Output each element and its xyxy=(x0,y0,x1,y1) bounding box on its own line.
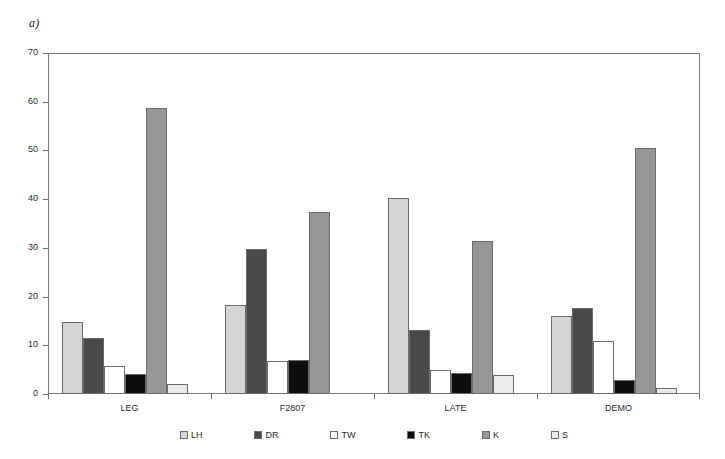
bar xyxy=(104,366,125,394)
bar xyxy=(472,241,493,394)
y-axis-tick-label: 60 xyxy=(28,96,38,107)
x-axis-category-label: F2807 xyxy=(280,403,306,413)
bar xyxy=(288,360,309,394)
legend-item[interactable]: K xyxy=(482,430,499,440)
bar xyxy=(267,361,288,394)
bar xyxy=(614,380,635,394)
bar xyxy=(83,338,104,395)
legend-label: LH xyxy=(191,430,203,440)
x-axis-category-label: LATE xyxy=(445,403,467,413)
bar xyxy=(572,308,593,394)
legend-label: TK xyxy=(418,430,430,440)
legend-item[interactable]: TK xyxy=(407,430,430,440)
bar xyxy=(409,330,430,394)
legend-item[interactable]: LH xyxy=(180,430,203,440)
legend-swatch-icon xyxy=(482,431,490,439)
bar xyxy=(388,198,409,394)
y-axis-tick-label: 0 xyxy=(33,388,38,399)
legend-item[interactable]: S xyxy=(551,430,568,440)
x-axis-category-label: DEMO xyxy=(605,403,632,413)
bars-layer xyxy=(48,53,700,394)
y-axis-tick-label: 10 xyxy=(28,339,38,350)
legend-label: K xyxy=(493,430,499,440)
bar xyxy=(246,249,267,394)
y-axis: 010203040506070 xyxy=(0,53,48,394)
bar xyxy=(309,212,330,394)
legend-swatch-icon xyxy=(330,431,338,439)
bar xyxy=(551,316,572,394)
bar xyxy=(62,322,83,394)
y-axis-tick-label: 50 xyxy=(28,144,38,155)
legend-swatch-icon xyxy=(551,431,559,439)
y-axis-tick-label: 20 xyxy=(28,291,38,302)
legend-label: TW xyxy=(341,430,355,440)
x-axis-tick-mark xyxy=(374,394,375,399)
legend-label: DR xyxy=(265,430,278,440)
y-axis-tick-label: 40 xyxy=(28,193,38,204)
legend-swatch-icon xyxy=(407,431,415,439)
bar xyxy=(167,384,188,394)
legend-label: S xyxy=(562,430,568,440)
y-axis-tick-label: 70 xyxy=(28,47,38,58)
panel-label: a) xyxy=(29,16,39,31)
bar xyxy=(125,374,146,394)
x-axis-tick-mark xyxy=(211,394,212,399)
x-axis: LEGF2807LATEDEMO xyxy=(48,394,700,424)
x-axis-tick-mark xyxy=(537,394,538,399)
bar xyxy=(451,373,472,394)
bar xyxy=(635,148,656,394)
x-axis-category-label: LEG xyxy=(120,403,138,413)
bar-chart-figure: a) 010203040506070 LEGF2807LATEDEMO LHDR… xyxy=(0,0,725,459)
bar xyxy=(493,375,514,394)
bar xyxy=(593,341,614,394)
legend-swatch-icon xyxy=(254,431,262,439)
x-axis-tick-mark xyxy=(48,394,49,399)
legend-item[interactable]: TW xyxy=(330,430,355,440)
legend-item[interactable]: DR xyxy=(254,430,278,440)
y-axis-tick-label: 30 xyxy=(28,242,38,253)
x-axis-tick-mark xyxy=(699,394,700,399)
bar xyxy=(430,370,451,394)
bar xyxy=(146,108,167,394)
chart-legend: LHDRTWTKKS xyxy=(48,424,700,446)
bar xyxy=(225,305,246,394)
legend-swatch-icon xyxy=(180,431,188,439)
